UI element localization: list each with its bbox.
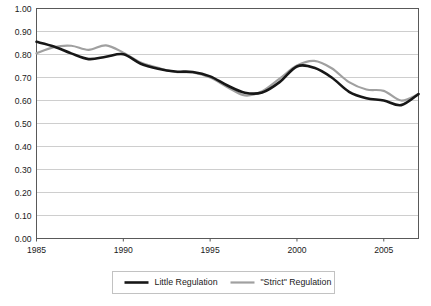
legend-label-1: Little Regulation bbox=[155, 277, 218, 287]
y-axis-tick-label: 0.10 bbox=[15, 211, 32, 221]
x-axis-tick-label: 2005 bbox=[374, 245, 393, 255]
y-axis-tick-label: 0.50 bbox=[15, 119, 32, 129]
y-axis-tick-label: 0.70 bbox=[15, 73, 32, 83]
y-axis-tick-label: 0.90 bbox=[15, 27, 32, 37]
x-axis-tick-label: 1990 bbox=[114, 245, 133, 255]
legend-label-2: "Strict" Regulation bbox=[261, 277, 332, 287]
y-axis-tick-label: 0.20 bbox=[15, 188, 32, 198]
y-axis-tick-label: 0.30 bbox=[15, 165, 32, 175]
x-axis-tick-label: 1995 bbox=[201, 245, 220, 255]
x-axis-tick-labels: 19851990199520002005 bbox=[27, 245, 394, 255]
series-line-2 bbox=[37, 45, 419, 100]
x-axis-tick-label: 1985 bbox=[27, 245, 46, 255]
data-series-group bbox=[37, 42, 419, 105]
y-axis-tick-label: 0.80 bbox=[15, 50, 32, 60]
y-axis-tick-labels: 0.000.100.200.300.400.500.600.700.800.90… bbox=[15, 4, 32, 244]
y-axis-tick-label: 0.60 bbox=[15, 96, 32, 106]
y-axis-tick-label: 0.40 bbox=[15, 142, 32, 152]
chart-canvas: 0.000.100.200.300.400.500.600.700.800.90… bbox=[0, 0, 431, 306]
series-line-1 bbox=[37, 42, 419, 105]
chart-legend: Little Regulation"Strict" Regulation bbox=[113, 272, 335, 294]
y-axis-tick-label: 0.00 bbox=[15, 234, 32, 244]
x-axis-tick-label: 2000 bbox=[287, 245, 306, 255]
line-chart: 0.000.100.200.300.400.500.600.700.800.90… bbox=[0, 0, 431, 306]
y-axis-tick-label: 1.00 bbox=[15, 4, 32, 14]
